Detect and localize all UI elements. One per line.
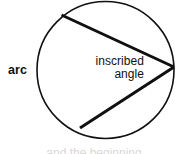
inscribed-angle-figure: arc inscribed angle and the beginning [0,0,188,154]
arc-label: arc [8,64,27,77]
inscribed-angle-label-line-1: inscribed [58,55,144,67]
inscribed-angle-label: inscribed angle [58,55,144,80]
clipped-caption-text: and the beginning [0,147,188,154]
inscribed-angle-label-line-2: angle [58,68,144,80]
